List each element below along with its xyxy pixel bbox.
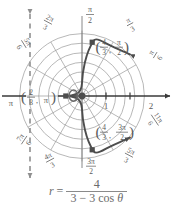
svg-text:6: 6 <box>24 139 34 147</box>
pole-marker <box>79 93 86 100</box>
equation-fraction: 4 3 − 3 cos θ <box>66 178 127 204</box>
svg-text:(: ( <box>96 124 101 141</box>
svg-text:2: 2 <box>89 167 93 176</box>
svg-text:3: 3 <box>29 98 33 107</box>
svg-text:,: , <box>109 131 111 140</box>
axis-tick-label-1: 1 <box>104 101 109 111</box>
svg-text:3π: 3π <box>87 157 95 166</box>
svg-text:3π: 3π <box>118 123 126 132</box>
polar-plot-svg: 1 2 π 2 π 3 π 6 <box>0 0 176 180</box>
angle-label-5pi-over-3: 5π 3 <box>120 145 137 166</box>
svg-text:3: 3 <box>49 160 57 170</box>
point-marker-top <box>90 40 95 45</box>
svg-text:3: 3 <box>102 48 106 57</box>
equation-denominator: 3 − 3 cos θ <box>66 191 127 205</box>
angle-label-3pi-over-2: 3π 2 <box>86 157 96 176</box>
svg-text:3: 3 <box>129 24 137 34</box>
svg-text:4: 4 <box>102 38 106 47</box>
svg-text:): ) <box>51 89 56 106</box>
svg-text:,: , <box>36 96 38 105</box>
angle-label-2pi-over-3: 2π 3 <box>39 12 56 33</box>
svg-text:6: 6 <box>146 120 155 128</box>
svg-text:3: 3 <box>42 22 50 32</box>
svg-text:): ) <box>124 39 129 56</box>
svg-text:): ) <box>129 124 134 141</box>
point-marker-bottom <box>90 147 95 152</box>
svg-text:π: π <box>117 38 121 47</box>
point-label-bottom: ( 4 3 , 3π 2 ) <box>96 123 135 142</box>
svg-text:6: 6 <box>155 54 165 62</box>
angle-label-pi-over-2: π 2 <box>86 5 94 25</box>
point-marker-left <box>63 93 68 98</box>
equation-equals: = <box>57 184 64 199</box>
svg-text:3: 3 <box>123 155 131 165</box>
svg-text:(: ( <box>21 89 26 106</box>
angle-label-pi-over-3: π 3 <box>123 14 138 34</box>
angle-label-pi-over-6: π 6 <box>146 47 166 63</box>
axis-tick-label-2: 2 <box>149 101 154 111</box>
equation-caption: r = 4 3 − 3 cos θ <box>0 178 176 210</box>
svg-text:π: π <box>44 95 49 105</box>
svg-text:4: 4 <box>102 123 106 132</box>
polar-graph-figure: 1 2 π 2 π 3 π 6 <box>0 0 176 210</box>
svg-text:,: , <box>109 46 111 55</box>
angle-label-11pi-over-6: 11π 6 <box>143 110 165 131</box>
svg-text:2: 2 <box>88 16 92 25</box>
svg-text:6: 6 <box>15 43 25 51</box>
angle-label-pi: π <box>9 98 14 108</box>
svg-text:(: ( <box>96 39 101 56</box>
svg-text:2: 2 <box>29 88 33 97</box>
svg-text:3: 3 <box>102 133 106 142</box>
equation-numerator: 4 <box>90 178 104 191</box>
svg-text:π: π <box>88 5 92 14</box>
svg-text:2: 2 <box>120 133 124 142</box>
svg-text:2: 2 <box>117 48 121 57</box>
angle-label-5pi-over-6: 5π 6 <box>13 35 34 53</box>
equation-lhs: r <box>49 184 54 199</box>
svg-text:π: π <box>124 15 132 25</box>
